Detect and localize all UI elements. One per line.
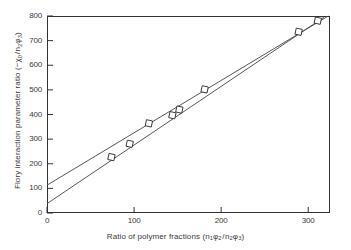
x-tick-label-100: 100 [121, 217, 147, 225]
x-tick-label-200: 200 [208, 217, 234, 225]
y-axis-title-sub-0: 0 [13, 55, 22, 58]
y-axis-title-slash: / [13, 52, 22, 55]
x-axis-title-lead: Ratio of polymer fractions (n [107, 232, 210, 241]
y-axis-title-close: ) [13, 32, 22, 35]
y-axis-title-phi: φ [13, 38, 22, 43]
y-axis-title-lead: Flory interaction parameter ratio (−χ [13, 58, 22, 189]
y-axis-title-sub-2: 2 [13, 44, 22, 47]
y-axis-title-sub-3: 3 [13, 35, 22, 38]
chart-figure: 0100200300400500600700800 0100200300 Rat… [0, 0, 351, 250]
y-axis-title: Flory interaction parameter ratio (−χ0/n… [13, 11, 22, 211]
y-axis-title-n2: n [13, 47, 22, 52]
x-tick-label-300: 300 [295, 217, 321, 225]
x-axis-title: Ratio of polymer fractions (n1φ2/n2φ3) [0, 232, 351, 241]
plot-area [47, 16, 330, 213]
x-tick-label-0: 0 [34, 217, 60, 225]
x-axis-title-close: ) [241, 232, 244, 241]
